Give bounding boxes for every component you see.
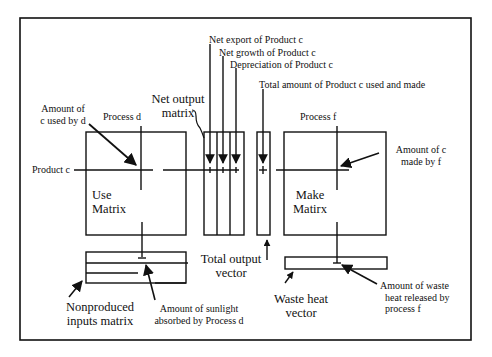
waste-amount-line3: process f [380,303,449,315]
make-matrix-line2: Matirx [288,202,332,216]
amount-made-label: Amount of c made by f [391,144,451,167]
amount-used-arrow [89,124,136,165]
waste-amount-line1: Amount of waste [380,280,449,292]
use-matrix-label: Use Matrix [92,188,126,217]
amount-made-line1: Amount of c [391,144,451,156]
waste-heat-line1: Waste heat [272,292,330,306]
net-growth-label: Net growth of Product c [219,47,316,59]
waste-amount-line2: heat released by [380,292,449,304]
use-matrix-line1: Use [92,188,126,202]
nonproduced-inputs-box [86,252,186,283]
waste-heat-line2: vector [272,306,330,320]
total-amount-label: Total amount of Product c used and made [259,79,425,91]
nonproduced-line1: Nonproduced [60,300,140,314]
sunlight-label: Amount of sunlight absorbed by Process d [152,303,246,326]
amount-made-arrow [341,153,379,166]
total-output-line2: vector [199,266,263,280]
nonproduced-line2: inputs matrix [60,314,140,328]
amount-made-line2: made by f [391,156,451,168]
make-matrix-box [284,132,386,235]
use-matrix-box [86,132,186,235]
amount-used-line2: c used by d [34,115,92,127]
nonproduced-arrow [69,281,82,297]
total-output-vector-label: Total output vector [199,252,263,281]
sunlight-line1: Amount of sunlight [152,303,246,315]
waste-heat-amount-label: Amount of waste heat released by process… [380,280,449,315]
waste-heat-amount-arrow [342,265,377,284]
depreciation-label: Depreciation of Product c [230,59,333,71]
net-output-line2: matrix [146,106,210,120]
product-c-label: Product c [32,164,70,176]
total-output-line1: Total output [199,252,263,266]
waste-heat-vector-label: Waste heat vector [272,292,330,321]
use-matrix-line2: Matrix [92,202,126,216]
amount-used-line1: Amount of [34,103,92,115]
make-matrix-label: Make Matirx [288,188,332,217]
process-d-label: Process d [103,111,141,123]
net-export-label: Net export of Product c [209,34,303,46]
nonproduced-inputs-label: Nonproduced inputs matrix [60,300,140,329]
waste-heat-vector-arrow [285,272,293,283]
make-matrix-line1: Make [288,188,332,202]
amount-used-label: Amount of c used by d [34,103,92,126]
sunlight-line2: absorbed by Process d [152,315,246,327]
process-f-label: Process f [300,111,336,123]
net-output-matrix-label: Net output matrix [146,92,210,121]
net-output-line1: Net output [146,92,210,106]
